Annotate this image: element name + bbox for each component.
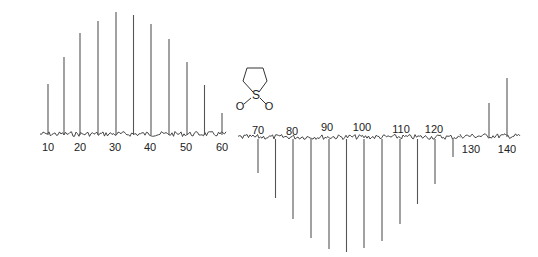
tick-label: 60 — [216, 141, 228, 153]
baseline-middle — [238, 135, 460, 140]
oxygen-right-label: O — [265, 100, 274, 112]
baseline-right — [460, 134, 520, 139]
tick-label: 110 — [392, 123, 410, 135]
tick-label: 140 — [498, 143, 516, 155]
tick-label: 130 — [462, 143, 480, 155]
spectrum-svg: 10 20 30 40 50 60 70 80 90 100 110 120 1… — [0, 0, 538, 257]
tick-label: 90 — [321, 121, 333, 133]
tick-label: 30 — [109, 141, 121, 153]
tick-label: 10 — [42, 141, 54, 153]
tick-label: 20 — [74, 141, 86, 153]
tick-label: 100 — [353, 121, 371, 133]
tick-label: 70 — [252, 124, 264, 136]
so-bond-left — [244, 98, 251, 104]
oxygen-left-label: O — [236, 100, 245, 112]
spectrum-chart: 10 20 30 40 50 60 70 80 90 100 110 120 1… — [0, 0, 538, 257]
tick-label: 80 — [286, 125, 298, 137]
sulfur-label: S — [252, 88, 260, 102]
tick-label: 120 — [425, 123, 443, 135]
tick-label: 50 — [180, 141, 192, 153]
x-tick-labels: 10 20 30 40 50 60 70 80 90 100 110 120 1… — [42, 121, 516, 155]
tick-label: 40 — [144, 141, 156, 153]
